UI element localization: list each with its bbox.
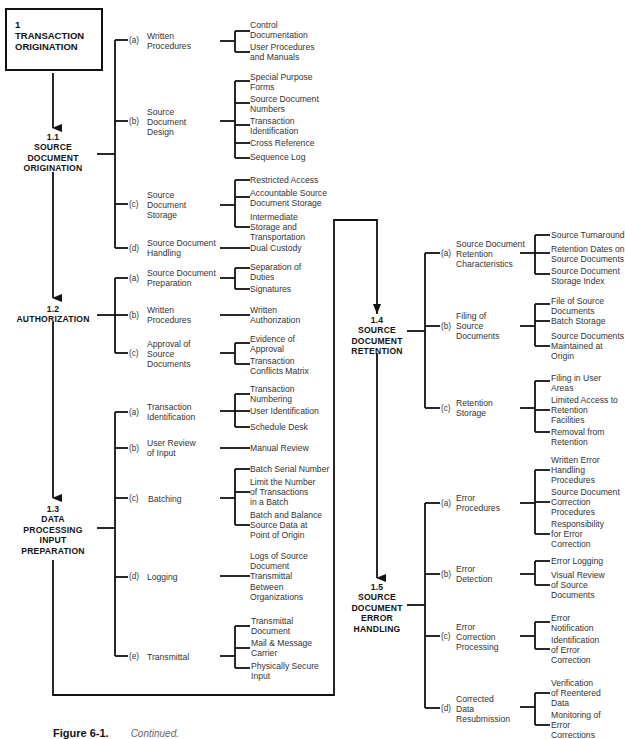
leaf-item: User Identification xyxy=(250,406,319,416)
leaf-item: Source DocumentCorrectionProcedures xyxy=(551,487,620,518)
leaf-item: ErrorNotification xyxy=(551,613,594,633)
node-1-3: 1.3 DATA PROCESSING INPUT PREPARATION xyxy=(8,504,98,556)
item-marker: (a) xyxy=(129,408,139,418)
leaf-item: Special PurposeForms xyxy=(250,72,313,92)
root-node-title-line1: TRANSACTION xyxy=(15,30,84,41)
leaf-item: Batch Serial Number xyxy=(250,464,329,474)
item-label: User Reviewof Input xyxy=(147,438,196,458)
leaf-item: Limit the Numberof Transactionsin a Batc… xyxy=(250,477,315,508)
item-marker: (b) xyxy=(129,117,139,127)
item-label: ErrorDetection xyxy=(456,564,492,584)
node-1-2: 1.2 AUTHORIZATION xyxy=(3,304,103,325)
leaf-item: TransactionConflicts Matrix xyxy=(250,356,309,376)
leaf-item: Error Logging xyxy=(551,556,603,566)
root-node-box: 1 TRANSACTION ORIGINATION xyxy=(5,8,103,71)
item-label: Source DocumentRetentionCharacteristics xyxy=(456,239,525,270)
item-marker: (a) xyxy=(441,249,451,259)
leaf-item: Physically SecureInput xyxy=(251,661,319,681)
item-label: Source DocumentPreparation xyxy=(147,268,216,288)
leaf-item: Schedule Desk xyxy=(250,422,308,432)
node-title-line: SOURCE xyxy=(13,142,93,152)
node-title-line: ERROR xyxy=(339,613,415,623)
node-title-line: RETENTION xyxy=(339,346,415,356)
item-marker: (c) xyxy=(129,349,139,359)
item-label: SourceDocumentStorage xyxy=(147,190,186,221)
node-1-1: 1.1 SOURCE DOCUMENT ORIGINATION xyxy=(13,132,93,174)
node-title-line: PROCESSING xyxy=(8,525,98,535)
item-marker: (a) xyxy=(441,499,451,509)
node-number: 1.2 xyxy=(3,304,103,314)
item-label: Filing ofSourceDocuments xyxy=(456,311,499,342)
leaf-item: WrittenAuthorization xyxy=(250,305,300,325)
leaf-item: TransactionIdentification xyxy=(250,116,298,136)
leaf-item: Responsibilityfor ErrorCorrection xyxy=(551,519,604,550)
root-node-title-line2: ORIGINATION xyxy=(15,41,78,52)
leaf-item: Batch and BalanceSource Data atPoint of … xyxy=(250,510,322,541)
node-title-line: DATA xyxy=(8,514,98,524)
item-label: WrittenProcedures xyxy=(147,31,191,51)
leaf-item: Logs of SourceDocumentTransmittalBetween… xyxy=(250,551,308,602)
node-title-line: INPUT xyxy=(8,535,98,545)
leaf-item: Retention Dates onSource Documents xyxy=(551,244,625,264)
leaf-item: Written ErrorHandlingProcedures xyxy=(551,455,600,486)
figure-caption: Figure 6-1.Continued. xyxy=(53,727,179,739)
leaf-item: Signatures xyxy=(250,284,291,294)
leaf-item: File of SourceDocuments xyxy=(551,296,604,316)
item-marker: (a) xyxy=(129,274,139,284)
leaf-item: Dual Custody xyxy=(250,243,302,253)
item-label: Logging xyxy=(147,572,178,582)
item-label: ErrorProcedures xyxy=(456,493,500,513)
leaf-item: TransmittalDocument xyxy=(251,616,293,636)
item-marker: (c) xyxy=(441,632,451,642)
node-title-line: PREPARATION xyxy=(8,546,98,556)
item-label: Source DocumentHandling xyxy=(147,238,216,258)
item-marker: (b) xyxy=(129,311,139,321)
node-number: 1.1 xyxy=(13,132,93,142)
item-marker: (d) xyxy=(441,704,451,714)
leaf-item: Sequence Log xyxy=(250,152,305,162)
item-label: WrittenProcedures xyxy=(147,305,191,325)
leaf-item: Source Turnaround xyxy=(551,230,625,240)
item-marker: (b) xyxy=(441,570,451,580)
node-number: 1.4 xyxy=(339,315,415,325)
node-title-line: DOCUMENT xyxy=(13,153,93,163)
item-marker: (b) xyxy=(441,322,451,332)
leaf-item: Accountable SourceDocument Storage xyxy=(250,188,327,208)
leaf-item: Manual Review xyxy=(250,443,309,453)
item-label: TransactionIdentification xyxy=(147,402,195,422)
node-title-line: ORIGINATION xyxy=(13,163,93,173)
node-number: 1.5 xyxy=(339,582,415,592)
leaf-item: Evidence ofApproval xyxy=(250,334,295,354)
leaf-item: Cross Reference xyxy=(250,138,314,148)
leaf-item: Separation ofDuties xyxy=(250,262,301,282)
item-label: RetentionStorage xyxy=(456,398,493,418)
node-number: 1.3 xyxy=(8,504,98,514)
item-label: Transmittal xyxy=(147,652,189,662)
item-marker: (e) xyxy=(129,652,139,662)
figure-label: Figure 6-1. xyxy=(53,727,109,739)
leaf-item: Limited Access toRetentionFacilities xyxy=(551,395,618,426)
leaf-item: Identificationof ErrorCorrection xyxy=(551,635,599,666)
item-label: SourceDocumentDesign xyxy=(147,107,186,138)
node-1-5: 1.5 SOURCE DOCUMENT ERROR HANDLING xyxy=(339,582,415,634)
item-marker: (c) xyxy=(129,200,139,210)
leaf-item: Removal fromRetention xyxy=(551,427,604,447)
leaf-item: Restricted Access xyxy=(250,175,318,185)
leaf-item: Batch Storage xyxy=(551,316,605,326)
item-label: Approval ofSourceDocuments xyxy=(147,339,190,370)
root-node-number: 1 xyxy=(15,19,20,30)
item-marker: (d) xyxy=(129,572,139,582)
leaf-item: Mail & MessageCarrier xyxy=(251,638,312,658)
leaf-item: ControlDocumentation xyxy=(250,20,308,40)
item-marker: (c) xyxy=(441,404,451,414)
item-marker: (d) xyxy=(129,244,139,254)
leaf-item: TransactionNumbering xyxy=(250,384,295,404)
item-marker: (b) xyxy=(129,444,139,454)
leaf-item: Source DocumentStorage Index xyxy=(551,266,620,286)
node-title-line: DOCUMENT xyxy=(339,603,415,613)
item-marker: (c) xyxy=(129,494,139,504)
leaf-item: Filing in UserAreas xyxy=(551,373,601,393)
item-label: Batching xyxy=(148,494,181,504)
node-title-line: SOURCE xyxy=(339,325,415,335)
node-1-4: 1.4 SOURCE DOCUMENT RETENTION xyxy=(339,315,415,357)
